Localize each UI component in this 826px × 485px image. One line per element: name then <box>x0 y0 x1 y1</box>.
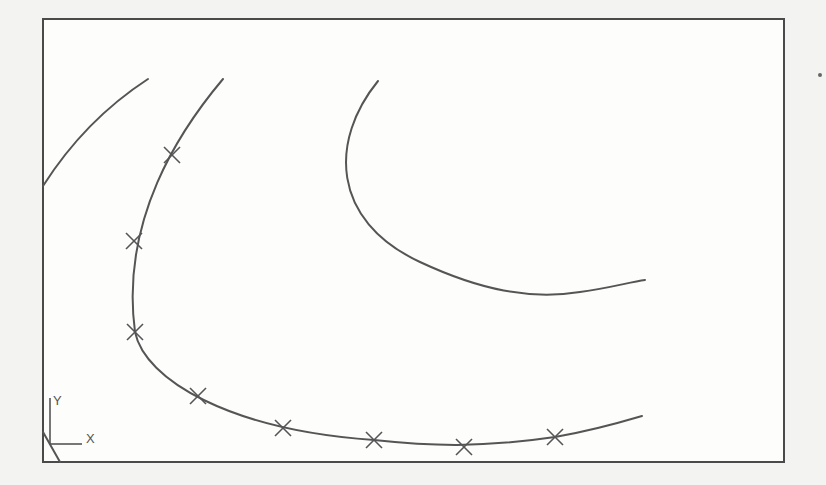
cad-drawing-canvas[interactable]: Y X <box>0 0 826 485</box>
stray-dot <box>818 73 822 77</box>
ucs-x-label: X <box>86 431 95 446</box>
ucs-y-label: Y <box>53 393 62 408</box>
viewport-frame <box>43 19 784 462</box>
